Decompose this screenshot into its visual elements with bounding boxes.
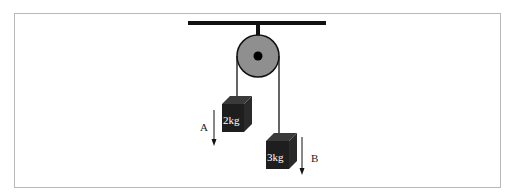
ceiling-bar — [188, 21, 326, 25]
arrow-a-label: A — [200, 121, 208, 133]
arrow-b-down-icon — [300, 137, 305, 175]
arrow-a-down-icon — [212, 110, 217, 146]
block-2kg-label: 2kg — [223, 114, 240, 126]
arrow-b-label: B — [311, 152, 318, 164]
pulley-diagram: 2kg 3kg A B — [0, 0, 515, 196]
pulley-axle — [254, 52, 263, 61]
block-3kg: 3kg — [266, 133, 297, 169]
block-2kg: 2kg — [222, 96, 252, 132]
block-3kg-label: 3kg — [267, 151, 284, 163]
